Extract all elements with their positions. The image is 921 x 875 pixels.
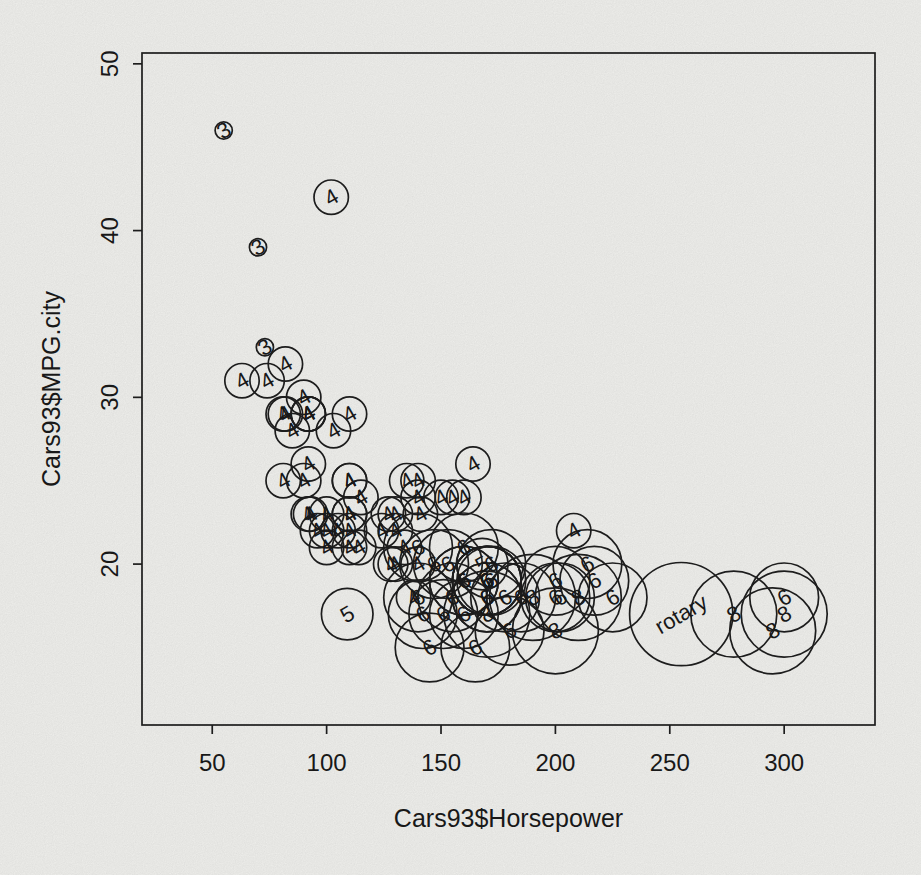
y-axis-title: Cars93$MPG.city (37, 291, 65, 487)
data-point-label: 6 (464, 634, 487, 662)
y-axis-tick-label: 50 (96, 50, 123, 77)
data-point-label: 4 (320, 183, 343, 211)
data-point-label: 4 (272, 467, 295, 495)
data-point-label: 6 (583, 567, 606, 595)
data-point-label: 4 (274, 350, 297, 378)
x-axis-tick-label: 300 (764, 749, 804, 776)
y-axis-tick-label: 40 (96, 217, 123, 244)
data-point-label: 4 (338, 400, 361, 428)
data-point-label: 5 (336, 600, 359, 628)
data-point-label: 4 (322, 417, 345, 445)
data-point-label: 4 (349, 484, 372, 512)
x-axis-tick-label: 200 (535, 749, 575, 776)
x-axis-tick-label: 150 (421, 749, 461, 776)
figure-page: 5010015020025030020304050Cars93$Horsepow… (0, 0, 921, 875)
y-axis-tick-label: 20 (96, 551, 123, 578)
x-axis-tick-label: 100 (307, 749, 347, 776)
data-point-label: 4 (461, 450, 484, 478)
scatter-plot: 5010015020025030020304050Cars93$Horsepow… (0, 0, 921, 875)
x-axis-tick-label: 250 (650, 749, 690, 776)
x-axis-tick-label: 50 (199, 749, 226, 776)
data-point-label: 4 (256, 367, 279, 395)
data-point-label: rotary (651, 589, 712, 639)
y-axis-tick-label: 30 (96, 384, 123, 411)
x-axis-title: Cars93$Horsepower (394, 804, 623, 832)
scan-grain (0, 0, 921, 875)
